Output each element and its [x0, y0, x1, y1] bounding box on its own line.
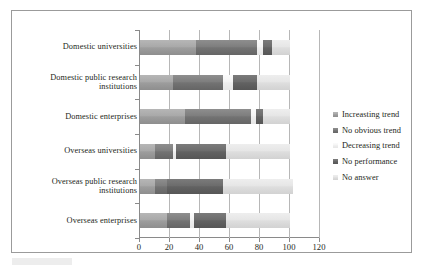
bar-row: [140, 179, 320, 194]
chart-screenshot: Domestic universitiesDomestic public res…: [0, 0, 435, 272]
bar-segment: [155, 144, 173, 159]
bar-row: [140, 109, 320, 124]
bar-segment: [140, 179, 155, 194]
y-axis-tick: [135, 169, 139, 170]
legend-item[interactable]: Increasting trend: [333, 107, 419, 123]
bar-segment: [226, 144, 291, 159]
category-label: Overseas public research institutions: [14, 177, 137, 196]
bar-segment: [226, 213, 291, 228]
chart-legend: Increasting trendNo obvious trendDecreas…: [333, 107, 419, 185]
bar-segment: [167, 213, 190, 228]
y-axis-tick: [135, 134, 139, 135]
x-axis-label: 100: [283, 242, 296, 252]
legend-label: No obvious trend: [342, 126, 401, 135]
x-axis-labels: 020406080100120: [139, 242, 320, 256]
bar-row: [140, 75, 320, 90]
gridline: [319, 30, 320, 238]
bar-segment: [263, 109, 290, 124]
category-label: Overseas universities: [14, 146, 137, 156]
legend-item[interactable]: No answer: [333, 169, 419, 185]
y-axis-tick: [135, 99, 139, 100]
gridline: [169, 30, 170, 238]
bar-segment: [167, 179, 223, 194]
legend-swatch-icon: [333, 128, 338, 133]
bar-row: [140, 213, 320, 228]
bar-row: [140, 144, 320, 159]
x-axis-label: 40: [195, 242, 204, 252]
y-axis-line: [139, 30, 140, 238]
bar-segment: [256, 109, 264, 124]
plot-area: [139, 30, 320, 238]
legend-item[interactable]: Decreasing trend: [333, 138, 419, 154]
x-axis-label: 60: [225, 242, 234, 252]
x-axis-label: 120: [313, 242, 326, 252]
legend-swatch-icon: [333, 143, 338, 148]
legend-swatch-icon: [333, 159, 338, 164]
chart-frame: Domestic universitiesDomestic public res…: [11, 10, 412, 253]
bar-segment: [223, 179, 294, 194]
bar-segment: [140, 213, 167, 228]
category-label: Domestic universities: [14, 42, 137, 52]
bar-segment: [140, 144, 155, 159]
bar-segment: [173, 75, 223, 90]
plot-inner: [139, 30, 320, 238]
bar-segment: [194, 213, 226, 228]
legend-label: No answer: [342, 173, 379, 182]
category-axis: Domestic universitiesDomestic public res…: [14, 27, 137, 237]
y-axis-tick: [135, 203, 139, 204]
bar-segment: [140, 40, 196, 55]
bar-segment: [140, 75, 173, 90]
bar-segment: [272, 40, 290, 55]
bar-segment: [233, 75, 257, 90]
bar-segment: [263, 40, 272, 55]
bar-segment: [223, 75, 234, 90]
legend-label: Increasting trend: [342, 110, 399, 119]
gridline: [199, 30, 200, 238]
legend-item[interactable]: No performance: [333, 154, 419, 170]
x-axis-label: 0: [137, 242, 141, 252]
bar-segment: [140, 109, 185, 124]
bar-segment: [196, 40, 258, 55]
bar-segment: [155, 179, 167, 194]
legend-item[interactable]: No obvious trend: [333, 123, 419, 139]
gridline: [229, 30, 230, 238]
gridline: [289, 30, 290, 238]
y-axis-tick: [135, 30, 139, 31]
bar-segment: [257, 75, 290, 90]
caption-placeholder: [12, 258, 72, 265]
y-axis-tick: [135, 65, 139, 66]
legend-label: No performance: [342, 157, 397, 166]
legend-swatch-icon: [333, 112, 338, 117]
bar-segment: [185, 109, 251, 124]
category-label: Domestic public research institutions: [14, 73, 137, 92]
gridline: [259, 30, 260, 238]
category-label: Domestic enterprises: [14, 112, 137, 122]
legend-swatch-icon: [333, 175, 338, 180]
x-axis-label: 20: [165, 242, 174, 252]
bar-row: [140, 40, 320, 55]
legend-label: Decreasing trend: [342, 141, 400, 150]
category-label: Overseas enterprises: [14, 216, 137, 226]
x-axis-label: 80: [255, 242, 264, 252]
bar-segment: [176, 144, 226, 159]
